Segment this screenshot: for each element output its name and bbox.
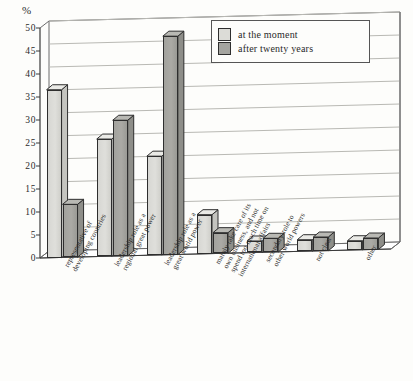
bar-chart: % 05101520253035404550 representative of… (0, 0, 413, 381)
x-axis-category-label: representative of developing countries (63, 209, 108, 273)
x-axis-category-label: mainly take care of its own business, an… (214, 197, 279, 278)
legend-swatch-after-twenty-years (218, 42, 231, 55)
legend-item: at the moment (218, 28, 363, 41)
legend-swatch-at-the-moment (218, 28, 231, 41)
legend-label-at-the-moment: at the moment (238, 29, 298, 40)
x-axis-category-label: leadership role as a regional great powe… (113, 208, 158, 272)
legend: at the moment after twenty years (211, 20, 370, 63)
x-axis-category-label: other (364, 244, 379, 262)
x-axis-category-label: not clear (314, 235, 334, 262)
x-axis-category-label: leadership role as a great world power (163, 211, 206, 271)
legend-item: after twenty years (218, 42, 363, 55)
legend-label-after-twenty-years: after twenty years (238, 43, 313, 54)
